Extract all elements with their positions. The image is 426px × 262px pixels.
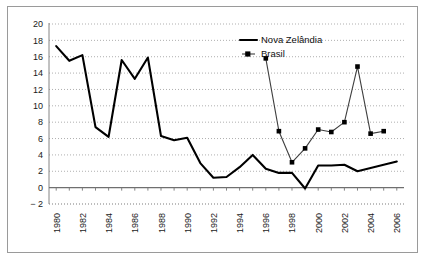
x-axis-tick-label: 2000 (314, 213, 324, 233)
data-point-marker (355, 64, 360, 69)
x-axis-tick-label: 1998 (287, 213, 297, 233)
x-axis-tick-label: 2004 (366, 213, 376, 233)
legend-label-nova-zelandia: Nova Zelândia (261, 34, 323, 45)
x-axis-tick-label: 1984 (104, 213, 114, 233)
data-point-marker (290, 160, 295, 165)
data-point-marker (316, 127, 321, 132)
x-axis-tick-label: 1980 (52, 213, 62, 233)
y-axis-tick-label: 20 (33, 19, 43, 29)
x-axis-tick-label: 1982 (78, 213, 88, 233)
x-axis-tick-label: 1986 (130, 213, 140, 233)
y-axis-tick-label: 12 (33, 85, 43, 95)
data-point-marker (368, 131, 373, 136)
y-axis-tick-label: 8 (38, 117, 43, 127)
data-point-marker (277, 129, 282, 134)
data-point-marker (303, 146, 308, 151)
x-axis-tick-label: 1988 (157, 213, 167, 233)
y-axis-tick-label: 16 (33, 52, 43, 62)
data-point-marker (329, 130, 334, 135)
x-axis-tick-label: 1994 (235, 213, 245, 233)
y-axis-tick-label: 14 (33, 68, 43, 78)
y-axis-tick-label: 4 (38, 150, 43, 160)
data-point-marker (381, 129, 386, 134)
y-axis-tick-label: 10 (33, 101, 43, 111)
legend-label-brasil: Brasil (261, 48, 285, 59)
y-axis-tick-label: 18 (33, 36, 43, 46)
line-chart: 20181614121086420− 219801982198419861988… (8, 7, 417, 252)
y-axis-tick-label: 6 (38, 134, 43, 144)
x-axis-tick-label: 2006 (392, 213, 402, 233)
series-line-brasil (266, 58, 384, 162)
x-axis-tick-label: 2002 (340, 213, 350, 233)
chart-frame: 20181614121086420− 219801982198419861988… (7, 6, 418, 253)
y-axis-tick-label: − 2 (30, 199, 43, 209)
x-axis-tick-label: 1990 (183, 213, 193, 233)
y-axis-tick-label: 2 (38, 166, 43, 176)
x-axis-tick-label: 1996 (261, 213, 271, 233)
data-point-marker (342, 120, 347, 125)
y-axis-tick-label: 0 (38, 183, 43, 193)
x-axis-tick-label: 1992 (209, 213, 219, 233)
legend-marker-brasil (245, 51, 250, 56)
